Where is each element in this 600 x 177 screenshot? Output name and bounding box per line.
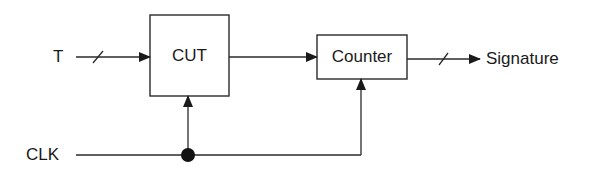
signature-output-label: Signature (486, 50, 559, 67)
counter-label: Counter (317, 35, 407, 79)
counter-to-signature-wire (407, 53, 480, 65)
t-input-label: T (53, 48, 63, 65)
junction-dot-icon (181, 148, 195, 162)
t-to-cut-wire (76, 51, 150, 63)
diagram-canvas (0, 0, 600, 177)
clk-input-label: CLK (26, 146, 59, 163)
cut-label: CUT (150, 15, 229, 96)
